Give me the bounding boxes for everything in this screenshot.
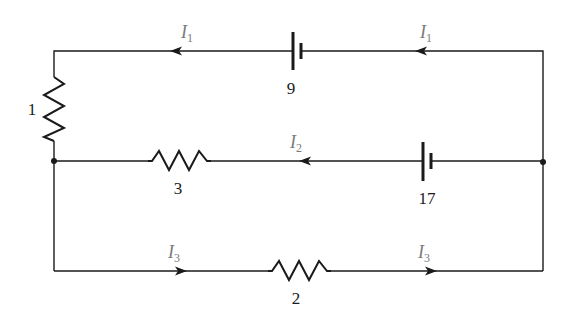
current-label-i2: I2 <box>289 132 302 155</box>
middle-branch: 3 17 I2 <box>54 132 543 208</box>
resistor-1-label: 1 <box>28 100 37 119</box>
resistor-1: 1 <box>28 77 64 141</box>
bottom-branch: 2 I3 I3 <box>54 242 543 308</box>
resistor-3-label: 3 <box>174 179 183 198</box>
resistor-3-zigzag <box>148 151 211 170</box>
current-label-i3-right: I3 <box>417 242 430 265</box>
battery-17-label: 17 <box>419 189 437 208</box>
current-label-i3-left: I3 <box>167 242 180 265</box>
current-label-i1-right: I1 <box>419 22 432 45</box>
current-label-i1-left: I1 <box>180 22 193 45</box>
battery-9: 9 <box>287 32 301 98</box>
junction-node-left <box>51 158 57 164</box>
battery-9-label: 9 <box>287 79 296 98</box>
resistor-1-zigzag <box>44 77 64 141</box>
top-wire-left <box>54 51 293 77</box>
circuit-diagram: 9 I1 I1 1 3 17 I2 2 I3 <box>0 0 567 317</box>
resistor-2-zigzag <box>268 261 331 280</box>
resistor-2-label: 2 <box>292 289 301 308</box>
junction-node-right <box>540 159 546 165</box>
battery-17: 17 <box>419 142 437 208</box>
